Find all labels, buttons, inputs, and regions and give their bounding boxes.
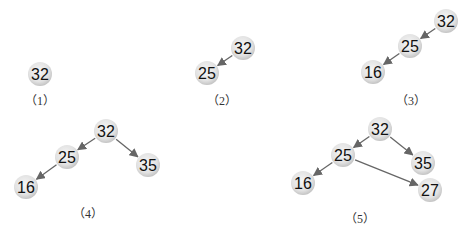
tree-step-3: 322516（3） [361, 9, 458, 108]
edge-arrow [314, 162, 333, 175]
edge-arrow [36, 165, 56, 180]
node-value: 32 [437, 13, 455, 30]
node-value: 32 [371, 121, 389, 138]
tree-node-25: 25 [55, 145, 79, 169]
bst-insertion-diagram: 32（1）3225（2）322516（3）32253516（4）32253516… [0, 0, 468, 238]
node-value: 25 [334, 147, 352, 164]
node-value: 16 [17, 179, 35, 196]
node-value: 35 [139, 157, 157, 174]
node-value: 25 [401, 38, 419, 55]
edge-arrow [354, 136, 370, 147]
edge-arrow [384, 53, 400, 64]
steps-layer: 32（1）3225（2）322516（3）32253516（4）32253516… [14, 9, 458, 226]
step-label: （1） [25, 94, 55, 108]
node-value: 32 [234, 40, 252, 57]
tree-node-16: 16 [14, 175, 38, 199]
edge-arrow [78, 138, 95, 150]
step-label: （3） [396, 94, 426, 108]
node-value: 35 [414, 155, 432, 172]
tree-node-32: 32 [28, 62, 52, 86]
tree-step-1: 32（1） [25, 62, 55, 108]
edge-arrow [218, 55, 233, 65]
node-value: 32 [31, 66, 49, 83]
edge-arrow [421, 28, 436, 38]
step-label: （4） [73, 207, 103, 221]
tree-step-5: 3225351627（5） [291, 117, 442, 226]
node-value: 25 [198, 65, 216, 82]
tree-node-25: 25 [331, 143, 355, 167]
edge-arrow [390, 137, 413, 155]
tree-node-32: 32 [94, 119, 118, 143]
tree-node-16: 16 [291, 171, 315, 195]
tree-node-27: 27 [418, 178, 442, 202]
step-label: （2） [207, 94, 237, 108]
tree-node-32: 32 [368, 117, 392, 141]
tree-node-25: 25 [195, 61, 219, 85]
tree-node-32: 32 [231, 36, 255, 60]
tree-step-2: 3225（2） [195, 36, 255, 108]
node-value: 16 [294, 175, 312, 192]
tree-node-35: 35 [411, 151, 435, 175]
tree-node-32: 32 [434, 9, 458, 33]
tree-step-4: 32253516（4） [14, 119, 160, 221]
step-label: （5） [345, 212, 375, 226]
tree-node-25: 25 [398, 34, 422, 58]
edge-arrow [116, 139, 138, 157]
edge-arrow [355, 160, 418, 185]
tree-node-35: 35 [136, 153, 160, 177]
node-value: 32 [97, 123, 115, 140]
node-value: 27 [421, 182, 439, 199]
node-value: 16 [364, 64, 382, 81]
node-value: 25 [58, 149, 76, 166]
tree-node-16: 16 [361, 60, 385, 84]
